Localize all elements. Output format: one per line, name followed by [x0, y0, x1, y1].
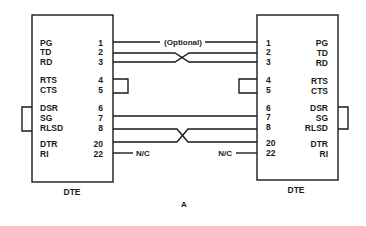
right-nc-label: N/C — [218, 149, 232, 158]
right-pin-numbers: 1 2 3 4 5 6 7 8 20 22 — [266, 38, 276, 158]
right-pin-4: 4 — [266, 75, 271, 85]
right-pin-20: 20 — [266, 138, 276, 148]
left-device-name: DTE — [64, 187, 81, 197]
null-modem-diagram: PG TD RD RTS CTS DSR SG RLSD DTR RI 1 2 … — [0, 0, 366, 226]
right-signal-rd: RD — [316, 58, 328, 68]
right-signal-cts: CTS — [311, 86, 328, 96]
left-signal-rd: RD — [40, 57, 52, 67]
left-signal-rlsd: RLSD — [40, 123, 63, 133]
left-rts-cts-loop — [113, 79, 128, 93]
left-pin-7: 7 — [98, 113, 103, 123]
right-rts-cts-loop — [239, 79, 257, 93]
right-signal-pg: PG — [316, 38, 329, 48]
right-dsr-rlsd-loop — [338, 107, 348, 129]
left-signal-rts: RTS — [40, 75, 57, 85]
right-signal-sg: SG — [316, 113, 329, 123]
right-signal-rlsd: RLSD — [305, 123, 328, 133]
left-signal-cts: CTS — [40, 85, 57, 95]
left-pin-5: 5 — [98, 85, 103, 95]
left-dsr-rlsd-loop — [22, 107, 32, 131]
left-pin-4: 4 — [98, 75, 103, 85]
right-pin-3: 3 — [266, 57, 271, 67]
left-pin-numbers: 1 2 3 4 5 6 7 8 20 22 — [94, 38, 104, 159]
left-signal-dsr: DSR — [40, 103, 58, 113]
left-pin-8: 8 — [98, 123, 103, 133]
wire-rd-to-td — [113, 53, 257, 62]
wire-rlsd-to-dtr — [113, 129, 257, 142]
optional-label: (Optional) — [164, 38, 202, 47]
left-pin-2: 2 — [98, 47, 103, 57]
right-signal-rts: RTS — [311, 76, 328, 86]
right-pin-5: 5 — [266, 85, 271, 95]
wire-td-to-rd — [113, 53, 257, 62]
left-nc-label: N/C — [136, 149, 150, 158]
right-signal-td: TD — [317, 48, 328, 58]
right-pin-7: 7 — [266, 112, 271, 122]
left-signal-dtr: DTR — [40, 139, 57, 149]
right-pin-8: 8 — [266, 122, 271, 132]
right-pin-2: 2 — [266, 47, 271, 57]
left-signal-labels: PG TD RD RTS CTS DSR SG RLSD DTR RI — [40, 38, 63, 159]
right-signal-dtr: DTR — [311, 139, 328, 149]
left-signal-td: TD — [40, 47, 51, 57]
left-signal-sg: SG — [40, 113, 53, 123]
left-pin-22: 22 — [94, 149, 104, 159]
right-signal-labels: PG TD RD RTS CTS DSR SG RLSD DTR RI — [305, 38, 329, 159]
figure-caption: A — [181, 200, 187, 209]
right-signal-dsr: DSR — [310, 103, 328, 113]
left-signal-ri: RI — [40, 149, 49, 159]
wire-dtr-to-rlsd — [113, 129, 257, 142]
left-pin-3: 3 — [98, 57, 103, 67]
right-pin-22: 22 — [266, 148, 276, 158]
left-pin-20: 20 — [94, 139, 104, 149]
right-device-name: DTE — [288, 185, 305, 195]
right-signal-ri: RI — [320, 149, 329, 159]
left-pin-6: 6 — [98, 103, 103, 113]
